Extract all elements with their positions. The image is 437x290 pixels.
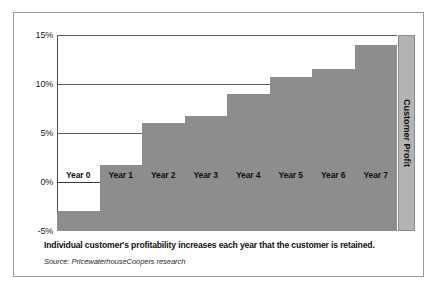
- plot-area: 15%10%5%0%-5% Year 0Year 1Year 2Year 3Ye…: [57, 35, 397, 231]
- bar: [227, 94, 270, 231]
- bar-category-label: Year 0: [57, 170, 100, 180]
- y-tick-label: 15%: [36, 30, 53, 40]
- customer-profit-label: Customer Profit: [402, 99, 412, 167]
- y-tick-label: 0%: [40, 177, 53, 187]
- bar-category-label: Year 4: [227, 170, 270, 180]
- bar-category-label: Year 6: [312, 170, 355, 180]
- bar-category-label: Year 7: [355, 170, 398, 180]
- bar-category-label: Year 2: [142, 170, 185, 180]
- chart-source: Source: PricewaterhouseCoopers research: [44, 257, 414, 266]
- y-tick-label: 5%: [40, 128, 53, 138]
- bar-series: Year 0Year 1Year 2Year 3Year 4Year 5Year…: [57, 35, 397, 231]
- y-tick-label: -5%: [38, 226, 53, 236]
- customer-profit-band: Customer Profit: [398, 35, 415, 231]
- bar: [355, 45, 398, 231]
- bar-category-label: Year 1: [100, 170, 143, 180]
- y-tick-label: 10%: [36, 79, 53, 89]
- bar: [312, 69, 355, 231]
- bar-category-label: Year 3: [185, 170, 228, 180]
- chart-figure: 15%10%5%0%-5% Year 0Year 1Year 2Year 3Ye…: [13, 12, 424, 277]
- bar: [270, 77, 313, 231]
- chart-caption: Individual customer's profitability incr…: [44, 240, 414, 250]
- bar: [57, 211, 100, 231]
- bar-category-label: Year 5: [270, 170, 313, 180]
